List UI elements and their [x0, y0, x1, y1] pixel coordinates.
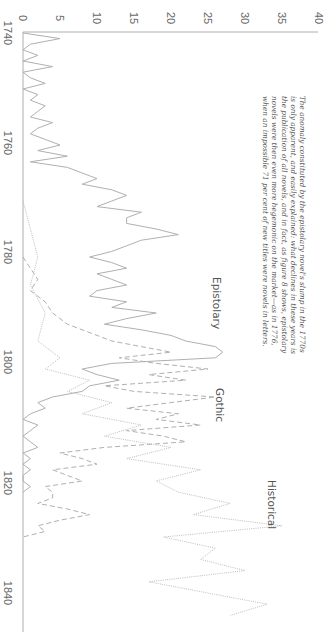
annotation-line: the publication of all novels, and in fa… — [280, 96, 289, 354]
value-tick-label: 40 — [313, 12, 325, 24]
annotation-line: The anomaly constituted by the epistolar… — [298, 96, 307, 353]
rotated-line-chart: 0510152025303540 17401760178018001820184… — [0, 0, 326, 635]
year-tick-label: 1740 — [2, 21, 14, 45]
series-label-gothic: Gothic — [214, 388, 226, 422]
value-tick-label: 25 — [202, 12, 214, 24]
value-tick-label: 20 — [165, 12, 177, 24]
annotation-line: is only apparent, and easily explained: … — [289, 96, 298, 354]
year-tick-label: 1780 — [2, 240, 14, 264]
value-tick-label: 35 — [276, 12, 288, 24]
value-tick-label: 0 — [17, 15, 29, 21]
year-tick-label: 1820 — [2, 471, 14, 495]
year-tick-label: 1840 — [2, 581, 14, 605]
annotation-note: The anomaly constituted by the epistolar… — [261, 96, 307, 354]
value-tick-label: 15 — [128, 12, 140, 24]
year-tick-label: 1760 — [2, 131, 14, 155]
value-axis-ticks: 0510152025303540 — [17, 12, 325, 24]
series-label-historical: Historical — [266, 480, 278, 529]
value-tick-label: 30 — [239, 12, 251, 24]
value-tick-label: 10 — [91, 12, 103, 24]
series-line-historical — [23, 201, 282, 615]
series-line-epistolary — [23, 33, 223, 492]
series-label-epistolary: Epistolary — [211, 277, 223, 329]
annotation-line: when an impossible 71 per cent of new ti… — [261, 96, 270, 346]
series-lines — [23, 33, 282, 615]
value-tick-label: 5 — [54, 15, 66, 21]
annotation-line: novels were then even more hegemonic on … — [270, 96, 279, 346]
year-tick-label: 1800 — [2, 350, 14, 374]
year-axis-ticks: 174017601780180018201840 — [2, 21, 14, 605]
